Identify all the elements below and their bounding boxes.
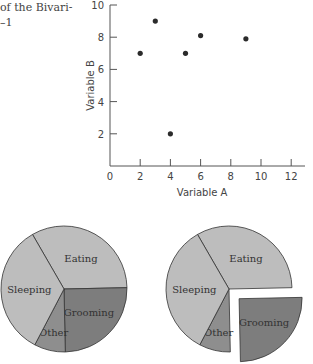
- x-tick-label: 8: [228, 171, 234, 182]
- x-tick-label: 2: [137, 171, 143, 182]
- data-point: [183, 51, 188, 56]
- y-tick-label: 10: [91, 0, 104, 11]
- data-point: [198, 33, 203, 38]
- x-tick-label: 6: [197, 171, 203, 182]
- pie-label-sleeping: Sleeping: [172, 284, 217, 295]
- y-tick-label: 8: [98, 32, 104, 43]
- x-tick-label: 0: [107, 171, 113, 182]
- pie-label-grooming: Grooming: [239, 317, 290, 328]
- pie-slice-grooming: [64, 288, 127, 352]
- pie-label-sleeping: Sleeping: [7, 284, 52, 295]
- pie-label-grooming: Grooming: [64, 307, 115, 318]
- x-tick-label: 4: [167, 171, 173, 182]
- pie-label-eating: Eating: [229, 253, 263, 264]
- y-tick-label: 4: [98, 97, 104, 108]
- x-tick-label: 10: [255, 171, 268, 182]
- data-point: [168, 131, 173, 136]
- x-tick-label: 12: [285, 171, 298, 182]
- pie-slice-grooming: [239, 297, 302, 361]
- data-point: [153, 19, 158, 24]
- y-tick-label: 6: [98, 64, 104, 75]
- figure-canvas: 024681012246810Variable AVariable BEatin…: [0, 0, 313, 364]
- pie-label-eating: Eating: [64, 253, 98, 264]
- data-point: [243, 36, 248, 41]
- x-axis-label: Variable A: [177, 187, 228, 198]
- y-axis-label: Variable B: [85, 60, 96, 111]
- data-point: [138, 51, 143, 56]
- y-tick-label: 2: [98, 129, 104, 140]
